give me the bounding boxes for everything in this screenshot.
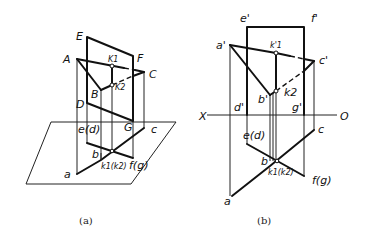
label-B: B: [91, 88, 99, 101]
label-c: c: [318, 123, 324, 136]
label-b-prime: b': [258, 93, 268, 106]
edge-k2c-end: [304, 61, 314, 71]
plane-EFGD: [87, 37, 133, 121]
label-A: A: [62, 53, 71, 66]
point-k1k2: [110, 149, 114, 153]
label-C: C: [149, 68, 157, 81]
label-b: b: [261, 155, 268, 168]
label-g-prime: g': [292, 101, 302, 114]
label-K2: K2: [115, 83, 125, 92]
point-k1k2-top: [275, 159, 279, 163]
label-fg: f(g): [129, 159, 148, 172]
caption-b: (b): [257, 215, 271, 226]
label-b: b: [92, 148, 99, 161]
label-F: F: [137, 52, 144, 65]
edge-ac-end: [304, 59, 314, 61]
point-K1: [110, 64, 114, 68]
label-c-prime: c': [319, 54, 328, 67]
edge-K2C-end: [133, 72, 144, 76]
label-c: c: [151, 123, 157, 136]
point-K2: [110, 83, 114, 87]
label-k1k2: k1(k2): [101, 162, 127, 171]
label-G: G: [124, 121, 133, 134]
label-X: X: [198, 110, 207, 123]
label-E: E: [76, 30, 83, 43]
label-ed: e(d): [243, 129, 265, 142]
caption-a: (a): [79, 215, 93, 226]
label-k1-prime: k'1: [270, 41, 282, 50]
label-a-prime: a': [216, 39, 226, 52]
label-d-prime: d': [234, 101, 244, 114]
edge-ab: [230, 45, 270, 95]
label-a: a: [224, 195, 231, 208]
point-k1-prime: [274, 51, 278, 55]
label-D: D: [76, 98, 84, 111]
label-fg: f(g): [312, 174, 331, 187]
edge-ac-hidden: [290, 56, 304, 59]
figure-b: e' f' a' c' k'1 k2 b' d' g' X O c e(d) b…: [198, 12, 349, 226]
label-e-prime: e': [240, 12, 250, 25]
label-f-prime: f': [311, 12, 318, 25]
point-k2-prime: [274, 89, 278, 93]
label-a: a: [64, 168, 71, 181]
label-k1k2: k1(k2): [268, 168, 294, 177]
label-ed: e(d): [78, 123, 100, 136]
label-O: O: [340, 110, 349, 123]
label-K1: K1: [108, 55, 118, 64]
diagram-canvas: E F A C K1 K2 B D G c e(d) b k1(k2) f(g)…: [0, 0, 368, 244]
label-k2-prime: k2: [284, 86, 297, 99]
figure-a: E F A C K1 K2 B D G c e(d) b k1(k2) f(g)…: [26, 30, 176, 226]
